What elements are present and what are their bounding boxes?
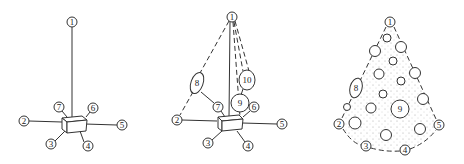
edge-5-hub [242,123,277,124]
svg-text:8: 8 [354,83,359,93]
svg-text:9: 9 [398,104,403,114]
node-a4: 4 [83,141,93,151]
diagram-figure: 1 2 3 4 5 6 7 1 2 3 4 5 6 7 8 [0,0,464,164]
svg-text:1: 1 [70,17,75,27]
node-c9: 9 [391,100,409,118]
svg-text:5: 5 [437,120,442,130]
edge-3-hub [55,131,65,141]
edge-6-hub [243,111,250,117]
panel-c: 1 2 3 4 5 8 9 [334,17,444,155]
node-b5: 5 [277,119,287,129]
edge-7-hub [62,111,67,117]
svg-text:5: 5 [280,119,285,129]
edge-6-hub [86,112,90,117]
hub-box [218,115,243,131]
edge-5-hub [85,124,117,125]
edge-4-hub [80,131,84,142]
node-a1: 1 [67,17,77,27]
panel-a: 1 2 3 4 5 6 7 [19,17,127,151]
node-a2: 2 [19,116,29,126]
node-a5: 5 [117,120,127,130]
node-b3: 3 [203,138,213,148]
svg-text:9: 9 [238,98,243,108]
edge-3-hub [212,131,222,140]
node-b4: 4 [243,141,253,151]
svg-text:3: 3 [49,139,54,149]
edge-8-7 [201,92,214,103]
node-b10: 10 [239,70,255,90]
hub-box [62,116,87,133]
node-c4: 4 [400,145,410,155]
svg-text:3: 3 [364,141,369,151]
svg-text:1: 1 [230,12,235,22]
edge-2-hub [29,121,62,122]
node-b9: 9 [231,94,249,112]
svg-text:4: 4 [403,145,408,155]
edge-1-8 [200,21,229,73]
svg-text:4: 4 [246,141,251,151]
node-b1: 1 [227,12,237,22]
node-c5: 5 [434,120,444,130]
edge-8-2 [180,92,193,115]
svg-text:4: 4 [86,141,91,151]
edge-2-hub [182,120,217,121]
node-b7: 7 [213,102,223,112]
edge-1-hub [229,22,230,117]
node-c2: 2 [334,119,344,129]
node-c3: 3 [361,141,371,151]
svg-text:8: 8 [195,78,200,88]
panel-b: 1 2 3 4 5 6 7 8 9 10 [172,12,287,151]
svg-text:1: 1 [388,17,393,27]
svg-text:6: 6 [252,102,257,112]
svg-text:7: 7 [57,102,62,112]
svg-text:2: 2 [175,115,180,125]
node-b2: 2 [172,115,182,125]
node-b8: 8 [188,71,207,96]
svg-text:2: 2 [22,116,27,126]
node-a7: 7 [54,102,64,112]
svg-text:2: 2 [337,119,342,129]
node-c1: 1 [385,17,395,27]
node-a3: 3 [46,139,56,149]
svg-text:5: 5 [120,120,125,130]
node-a6: 6 [88,103,98,113]
edge-4-hub [237,131,245,142]
svg-text:6: 6 [91,103,96,113]
svg-text:10: 10 [243,75,253,85]
node-b6: 6 [249,102,259,112]
svg-text:3: 3 [206,138,211,148]
svg-text:7: 7 [216,102,221,112]
